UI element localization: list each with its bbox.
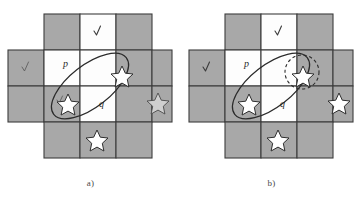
cell-r1c4 <box>152 50 172 86</box>
cell-b-r2c2 <box>261 86 297 122</box>
cell-r2c2 <box>80 86 116 122</box>
cell-r1c1 <box>44 50 80 86</box>
cell-r2c0 <box>8 86 44 122</box>
cell-b-r1c2 <box>261 50 297 86</box>
cell-b-r0c2 <box>297 14 333 50</box>
caption-a: a) <box>0 178 181 188</box>
panel-a-graphic: p q <box>0 0 181 175</box>
cell-r0c0 <box>44 14 80 50</box>
label-q: q <box>99 98 104 109</box>
panel-a: p q a) <box>0 0 181 207</box>
label-p: p <box>62 58 68 69</box>
caption-b: b) <box>181 178 362 188</box>
cell-b-r3c2 <box>297 122 333 158</box>
panel-b-graphic: p q <box>181 0 362 175</box>
cell-r3c0 <box>44 122 80 158</box>
cell-b-r3c0 <box>225 122 261 158</box>
cell-b-r2c0 <box>189 86 225 122</box>
cell-b-r2c3 <box>297 86 333 122</box>
cell-b-r0c0 <box>225 14 261 50</box>
cell-r0c2 <box>116 14 152 50</box>
label-b-p: p <box>243 58 249 69</box>
panel-b: p q b) <box>181 0 362 207</box>
cell-b-r1c4 <box>333 50 353 86</box>
figure-container: p q a) <box>0 0 362 207</box>
cell-b-r1c1 <box>225 50 261 86</box>
cell-r1c2 <box>80 50 116 86</box>
cell-r2c3 <box>116 86 152 122</box>
label-b-q: q <box>280 98 285 109</box>
cell-r3c2 <box>116 122 152 158</box>
